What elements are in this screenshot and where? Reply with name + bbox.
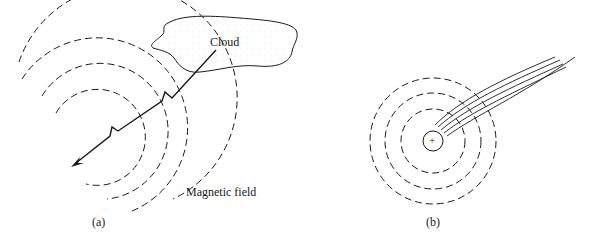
panel-a <box>19 0 297 211</box>
cloud-label: Cloud <box>210 36 239 48</box>
caption-a: (a) <box>92 216 105 228</box>
diagram-canvas <box>0 0 589 243</box>
center-plus-symbol: + <box>429 135 435 146</box>
panel-b <box>370 57 575 204</box>
streak-lines <box>435 57 575 136</box>
caption-b: (b) <box>426 216 440 228</box>
magnetic-field-label: Magnetic field <box>186 186 256 198</box>
